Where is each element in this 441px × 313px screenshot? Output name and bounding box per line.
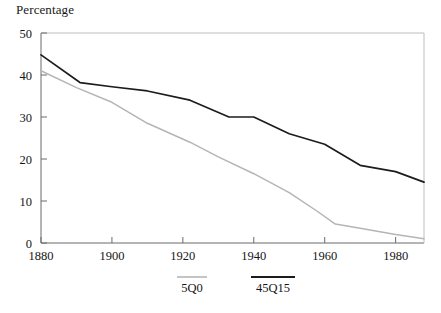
data-series-group (41, 55, 424, 239)
y-axis-ticks: 01020304050 (20, 27, 48, 251)
chart-plot-area: 01020304050 188019001920194019601980 5Q0… (0, 0, 441, 313)
x-axis-ticks: 188019001920194019601980 (29, 237, 409, 263)
y-tick-label: 10 (20, 195, 33, 209)
series-line-5q0 (41, 71, 424, 239)
chart-legend: 5Q045Q15 (177, 277, 295, 295)
y-tick-label: 30 (20, 111, 33, 125)
y-tick-label: 50 (20, 27, 33, 41)
x-tick-label: 1880 (29, 249, 54, 263)
x-tick-label: 1960 (312, 249, 337, 263)
y-tick-label: 20 (20, 153, 33, 167)
legend-label-45q15: 45Q15 (256, 281, 290, 295)
x-tick-label: 1940 (241, 249, 266, 263)
legend-label-5q0: 5Q0 (181, 281, 203, 295)
x-tick-label: 1900 (99, 249, 124, 263)
x-tick-label: 1920 (170, 249, 195, 263)
x-tick-label: 1980 (383, 249, 408, 263)
chart-figure: Percentage 01020304050 18801900192019401… (0, 0, 441, 313)
y-tick-label: 40 (20, 69, 33, 83)
